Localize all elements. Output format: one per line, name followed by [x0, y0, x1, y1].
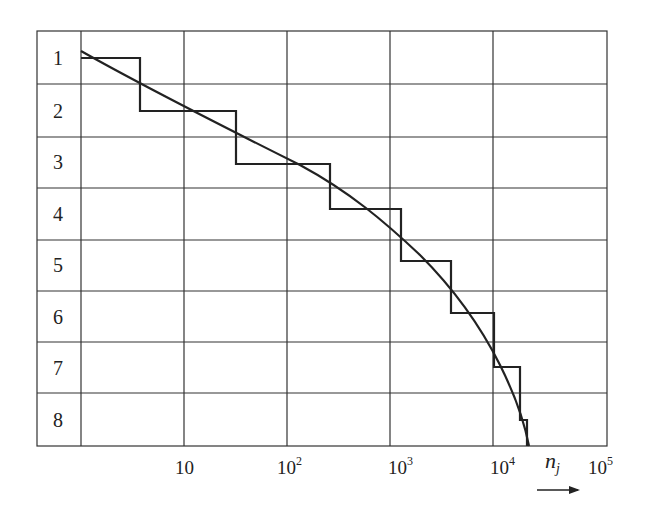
tick-label-10-5: 105 [588, 454, 613, 478]
tick-label-10-2: 102 [277, 454, 302, 478]
row-label-7: 7 [53, 357, 63, 379]
plot-frame [37, 31, 607, 446]
tick-label-10: 10 [175, 457, 194, 478]
row-label-3: 3 [53, 151, 63, 173]
tick-label-10-4: 104 [490, 454, 515, 478]
row-labels: 1 2 3 4 5 6 7 8 [53, 47, 63, 431]
grid [37, 31, 607, 446]
row-label-8: 8 [53, 409, 63, 431]
tick-label-10-3: 103 [388, 454, 413, 478]
x-axis-label-text: nj [545, 448, 560, 476]
arrow-right-icon [569, 486, 580, 494]
row-label-4: 4 [53, 203, 63, 225]
row-label-6: 6 [53, 306, 63, 328]
chart: 1 2 3 4 5 6 7 8 10 102 103 104 105 nj [0, 0, 651, 520]
staircase-series [81, 58, 527, 446]
row-label-1: 1 [53, 47, 63, 69]
x-axis-label: nj [537, 448, 580, 494]
row-label-2: 2 [53, 100, 63, 122]
row-label-5: 5 [53, 254, 63, 276]
